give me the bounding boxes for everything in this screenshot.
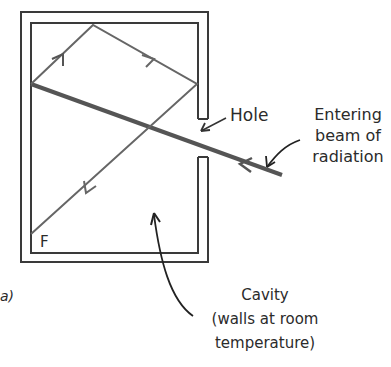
cavity-label-line-2: (walls at room — [190, 307, 340, 331]
beam-label-line-3: radiation — [308, 146, 388, 167]
beam-label-line-2: beam of — [308, 125, 388, 146]
ray-arrow-icon-2 — [142, 55, 154, 67]
panel-label: a) — [0, 286, 14, 307]
ray-arrow-icon-3 — [84, 181, 96, 193]
cavity-pointer-arrow — [154, 215, 193, 316]
hole-label: Hole — [230, 105, 268, 126]
cavity-label-line-1: Cavity — [190, 283, 340, 307]
beam-label-line-1: Entering — [308, 104, 388, 125]
beam-label: Entering beam of radiation — [308, 104, 388, 167]
corner-label-f: F — [40, 232, 49, 253]
cavity-label: Cavity (walls at room temperature) — [190, 283, 340, 355]
cavity-label-line-3: temperature) — [190, 331, 340, 355]
